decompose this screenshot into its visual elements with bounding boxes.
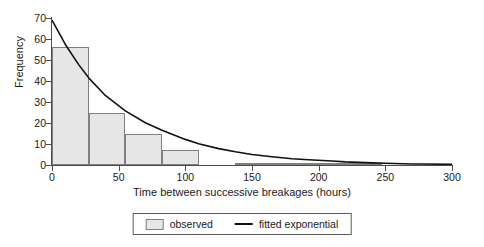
y-tick-label: 50 [20, 55, 46, 66]
legend-label-fitted-exponential: fitted exponential [259, 218, 338, 230]
legend-item-observed: observed [146, 218, 213, 230]
y-tick-mark [46, 144, 51, 145]
y-tick-label: 70 [20, 13, 46, 24]
x-tick-label: 100 [165, 171, 205, 183]
legend-line-swatch-icon [235, 223, 253, 225]
legend-label-observed: observed [170, 218, 213, 230]
y-tick-label: 0 [20, 160, 46, 171]
y-tick-label: 10 [20, 139, 46, 150]
x-tick-label: 0 [32, 171, 72, 183]
y-tick-mark [46, 81, 51, 82]
y-tick-label: 40 [20, 76, 46, 87]
x-tick-label: 250 [365, 171, 405, 183]
y-tick-mark [46, 102, 51, 103]
y-tick-label: 30 [20, 97, 46, 108]
x-axis-title: Time between successive breakages (hours… [0, 186, 484, 198]
y-tick-mark [46, 39, 51, 40]
x-tick-label: 50 [99, 171, 139, 183]
legend-item-fitted-exponential: fitted exponential [235, 218, 338, 230]
x-tick-label: 150 [232, 171, 272, 183]
y-tick-mark [46, 60, 51, 61]
x-tick-label: 300 [432, 171, 472, 183]
chart-legend: observed fitted exponential [133, 213, 352, 235]
legend-box-swatch-icon [146, 219, 164, 230]
y-tick-mark [46, 123, 51, 124]
x-tick-label: 200 [299, 171, 339, 183]
y-tick-label: 60 [20, 34, 46, 45]
chart-container: Frequency 010203040506070 05010015020025… [0, 0, 484, 247]
y-tick-mark [46, 18, 51, 19]
y-tick-label: 20 [20, 118, 46, 129]
fitted-exponential-curve [52, 18, 452, 165]
y-tick-mark [46, 165, 51, 166]
